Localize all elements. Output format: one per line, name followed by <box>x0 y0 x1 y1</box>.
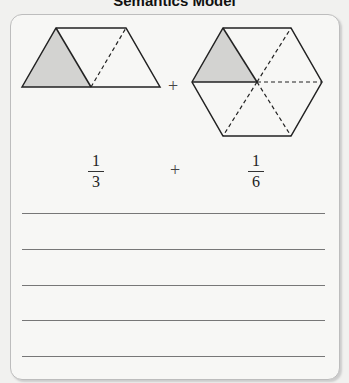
answer-line-2[interactable] <box>22 249 325 250</box>
answer-line-1[interactable] <box>22 213 325 214</box>
trapezoid-model <box>22 28 160 87</box>
fraction-one-third: 1 3 <box>86 152 106 191</box>
plus-sign-top: + <box>168 76 178 97</box>
fraction-bar <box>88 171 104 172</box>
answer-line-3[interactable] <box>22 285 325 286</box>
fraction-bar <box>248 171 264 172</box>
answer-line-5[interactable] <box>22 356 325 357</box>
fraction-one-sixth: 1 6 <box>246 152 266 191</box>
plus-sign: + <box>170 160 180 181</box>
denominator: 6 <box>246 173 266 191</box>
denominator: 3 <box>86 173 106 191</box>
fraction-models <box>0 0 349 383</box>
numerator: 1 <box>86 152 106 170</box>
numerator: 1 <box>246 152 266 170</box>
hexagon-model <box>192 28 322 136</box>
answer-line-4[interactable] <box>22 320 325 321</box>
